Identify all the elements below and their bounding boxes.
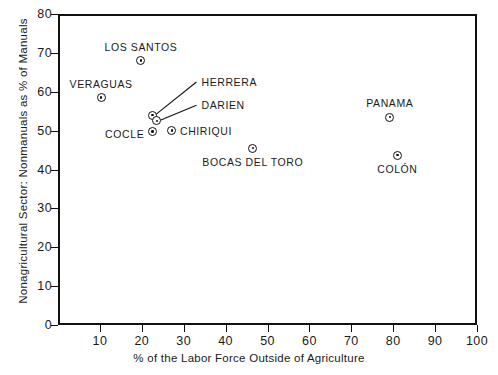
- x-axis-tick: [226, 325, 227, 332]
- x-axis-tick: [309, 325, 310, 332]
- x-axis-tick-label: 90: [428, 334, 443, 348]
- data-point-bocas_del_toro[interactable]: [248, 144, 257, 153]
- x-axis-tick-label: 60: [302, 334, 317, 348]
- point-label-panama: PANAMA: [366, 97, 413, 109]
- x-axis-tick: [435, 325, 436, 332]
- data-point-chiriqui[interactable]: [167, 126, 176, 135]
- y-axis-tick: [51, 247, 58, 248]
- point-label-bocas_del_toro: BOCAS DEL TORO: [202, 156, 303, 168]
- y-axis-tick: [51, 53, 58, 54]
- point-label-chiriqui: CHIRIQUI: [180, 125, 232, 137]
- y-axis-tick: [51, 92, 58, 93]
- y-axis-tick: [51, 131, 58, 132]
- y-axis-tick: [51, 286, 58, 287]
- x-axis-tick-label: 50: [260, 334, 275, 348]
- x-axis-tick: [100, 325, 101, 332]
- leader-line-herrera: [156, 82, 196, 114]
- x-axis-tick-label: 80: [386, 334, 401, 348]
- data-point-colon[interactable]: [393, 151, 402, 160]
- y-axis-tick: [51, 14, 58, 15]
- y-axis-tick-label: 0: [45, 318, 52, 332]
- x-axis-title: % of the Labor Force Outside of Agricult…: [0, 352, 498, 364]
- x-axis-tick-label: 40: [218, 334, 233, 348]
- y-axis-tick-label: 80: [37, 7, 52, 21]
- y-axis-tick: [51, 325, 58, 326]
- y-axis-tick-label: 50: [37, 124, 52, 138]
- y-axis-tick: [51, 208, 58, 209]
- leader-line-darien: [161, 105, 197, 120]
- data-point-darien[interactable]: [152, 116, 161, 125]
- y-axis-tick-label: 20: [37, 240, 52, 254]
- plot-area: 01020304050607080102030405060708090100LO…: [58, 14, 477, 325]
- point-label-colon: COLÓN: [377, 163, 417, 175]
- y-axis-tick-label: 60: [37, 85, 52, 99]
- x-axis-tick: [184, 325, 185, 332]
- point-label-los_santos: LOS SANTOS: [104, 41, 177, 53]
- y-axis-tick: [51, 170, 58, 171]
- y-axis-tick-label: 30: [37, 201, 52, 215]
- x-axis-tick-label: 70: [344, 334, 359, 348]
- scatter-plot-figure: 01020304050607080102030405060708090100LO…: [0, 0, 498, 375]
- x-axis-tick-label: 30: [176, 334, 191, 348]
- y-axis-tick-label: 10: [37, 279, 52, 293]
- data-point-panama[interactable]: [385, 113, 394, 122]
- data-point-cocle[interactable]: [148, 127, 157, 136]
- x-axis-tick-label: 10: [93, 334, 108, 348]
- point-label-veraguas: VERAGUAS: [70, 78, 133, 90]
- point-label-herrera: HERRERA: [201, 76, 257, 88]
- x-axis-tick: [393, 325, 394, 332]
- y-axis-title: Nonagricultural Sector: Nonmanuals as % …: [17, 0, 29, 326]
- x-axis-tick-label: 20: [134, 334, 149, 348]
- data-point-los_santos[interactable]: [136, 56, 145, 65]
- point-label-cocle: COCLE: [105, 128, 144, 140]
- data-point-veraguas[interactable]: [97, 93, 106, 102]
- x-axis-tick-label: 100: [466, 334, 488, 348]
- x-axis-tick: [351, 325, 352, 332]
- x-axis-tick: [268, 325, 269, 332]
- x-axis-tick: [142, 325, 143, 332]
- x-axis-tick: [477, 325, 478, 332]
- y-axis-tick-label: 70: [37, 46, 52, 60]
- y-axis-tick-label: 40: [37, 163, 52, 177]
- point-label-darien: DARIEN: [201, 99, 244, 111]
